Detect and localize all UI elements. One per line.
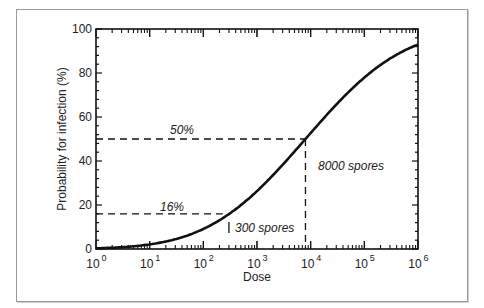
dose-response-chart: 0 20 40 60 80 100 100101102103104105106 … <box>0 0 484 308</box>
y-tick-label: 80 <box>79 66 93 80</box>
y-axis-title: Probability for infection (%) <box>55 67 69 210</box>
x-tick-exponent: 0 <box>101 253 106 263</box>
y-tick-label: 20 <box>79 198 93 212</box>
x-tick-exponent: 2 <box>209 253 214 263</box>
x-tick-labels: 100101102103104105106 <box>86 253 428 271</box>
annotation-300-spores: 300 spores <box>235 221 294 235</box>
x-tick-exponent: 6 <box>423 253 428 263</box>
x-tick-exponent: 5 <box>370 253 375 263</box>
x-tick-exponent: 1 <box>155 253 160 263</box>
x-tick-exponent: 4 <box>316 253 321 263</box>
x-tick-label: 10 <box>247 257 261 271</box>
y-tick-label: 0 <box>85 242 92 256</box>
x-tick-label: 10 <box>86 257 100 271</box>
x-tick-label: 10 <box>355 257 369 271</box>
x-tick-label: 10 <box>194 257 208 271</box>
x-tick-label: 10 <box>408 257 422 271</box>
y-tick-label: 100 <box>72 22 92 36</box>
x-tick-label: 10 <box>301 257 315 271</box>
annotation-50-percent: 50% <box>170 123 194 137</box>
annotation-16-percent: 16% <box>160 200 184 214</box>
annotation-8000-spores: 8000 spores <box>318 159 384 173</box>
x-axis-title: Dose <box>243 270 271 284</box>
y-tick-label: 40 <box>79 154 93 168</box>
x-tick-exponent: 3 <box>262 253 267 263</box>
y-tick-label: 60 <box>79 110 93 124</box>
dose-response-curve <box>96 45 418 249</box>
x-tick-label: 10 <box>140 257 154 271</box>
